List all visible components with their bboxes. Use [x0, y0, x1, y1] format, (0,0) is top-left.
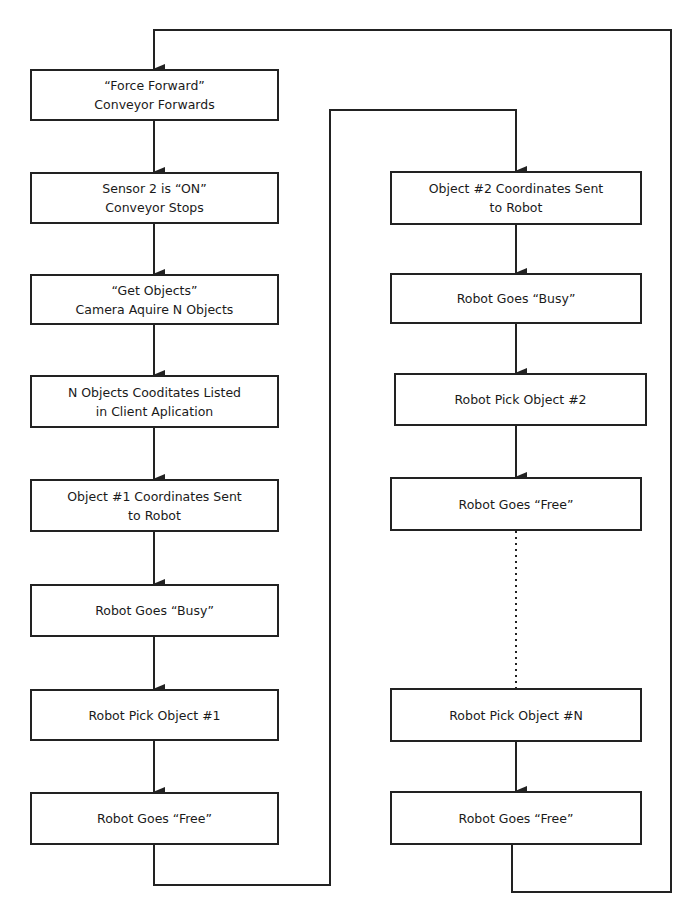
connector-layer [0, 0, 691, 917]
step-text: in Client Aplication [96, 402, 213, 421]
connector-loop-back [154, 30, 671, 892]
step-robot-busy-1: Robot Goes “Busy” [30, 584, 279, 637]
step-text: “Get Objects” [112, 281, 198, 300]
step-text: Robot Goes “Free” [459, 495, 574, 514]
step-text: Robot Goes “Busy” [457, 289, 576, 308]
step-text: Conveyor Forwards [94, 95, 214, 114]
step-force-forward: “Force Forward” Conveyor Forwards [30, 69, 279, 121]
step-text: Robot Pick Object #N [449, 706, 583, 725]
step-object2-sent: Object #2 Coordinates Sent to Robot [390, 171, 642, 225]
step-robot-busy-2: Robot Goes “Busy” [390, 273, 642, 324]
step-object1-sent: Object #1 Coordinates Sent to Robot [30, 479, 279, 532]
step-get-objects: “Get Objects” Camera Aquire N Objects [30, 274, 279, 325]
step-coords-listed: N Objects Cooditates Listed in Client Ap… [30, 375, 279, 428]
step-sensor-on: Sensor 2 is “ON” Conveyor Stops [30, 172, 279, 224]
step-text: N Objects Cooditates Listed [68, 383, 241, 402]
step-text: Object #1 Coordinates Sent [67, 487, 242, 506]
step-text: Conveyor Stops [105, 198, 203, 217]
step-text: to Robot [128, 506, 181, 525]
step-text: to Robot [490, 198, 543, 217]
step-text: “Force Forward” [104, 76, 205, 95]
step-robot-pick-1: Robot Pick Object #1 [30, 689, 279, 741]
step-robot-free-n: Robot Goes “Free” [390, 791, 642, 845]
step-text: Robot Pick Object #1 [88, 706, 220, 725]
step-text: Robot Goes “Free” [97, 809, 212, 828]
step-text: Robot Goes “Free” [459, 809, 574, 828]
step-text: Robot Pick Object #2 [454, 390, 586, 409]
step-text: Object #2 Coordinates Sent [429, 179, 604, 198]
step-robot-pick-n: Robot Pick Object #N [390, 688, 642, 742]
step-robot-pick-2: Robot Pick Object #2 [394, 373, 647, 426]
step-text: Camera Aquire N Objects [76, 300, 234, 319]
step-robot-free-1: Robot Goes “Free” [30, 792, 279, 845]
step-robot-free-2: Robot Goes “Free” [390, 477, 642, 531]
step-text: Sensor 2 is “ON” [102, 179, 206, 198]
step-text: Robot Goes “Busy” [95, 601, 214, 620]
